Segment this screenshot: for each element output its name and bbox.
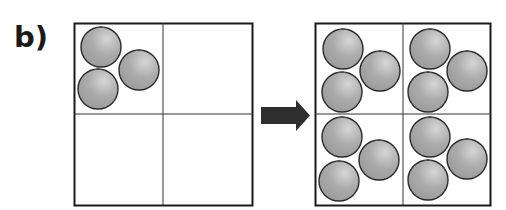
- arrow-right-icon: [261, 100, 310, 131]
- orange-group-top-right: [408, 29, 487, 113]
- orange-group-top-left: [322, 29, 400, 113]
- orange-group-top-left: [78, 27, 159, 110]
- diagram: [0, 0, 506, 210]
- orange-group-bottom-right: [408, 117, 487, 201]
- left-grid: [74, 23, 253, 206]
- right-grid: [315, 23, 491, 206]
- orange-group-bottom-left: [319, 117, 399, 202]
